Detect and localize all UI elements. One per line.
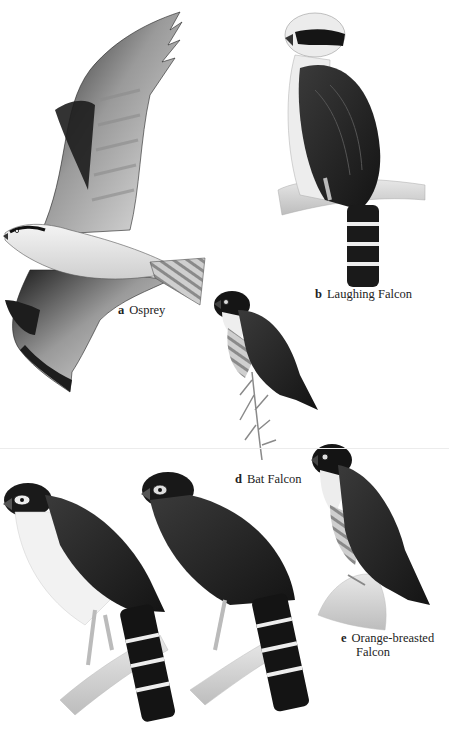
caption-letter: e [341,631,347,645]
orange-breasted-falcon-figure [311,444,430,630]
caption-name: Orange-breasted [352,631,435,645]
caption-letter: d [235,472,242,486]
caption-orange-breasted-falcon: eOrange-breasted [341,631,434,645]
laughing-falcon-figure [278,13,425,287]
caption-laughing-falcon: bLaughing Falcon [315,287,412,301]
forest-falcon-white-figure [3,483,176,723]
caption-orange-breasted-falcon-line2: Falcon [356,645,390,659]
bat-falcon-figure [214,291,318,460]
caption-bat-falcon: dBat Falcon [235,472,301,486]
illustration-plate: aOsprey bLaughing Falcon dBat Falcon eOr… [0,0,449,735]
osprey-figure [3,12,205,392]
caption-letter: b [315,287,322,301]
caption-osprey: aOsprey [118,303,165,317]
caption-name: Osprey [129,303,165,317]
section-divider [0,448,449,449]
bird-illustrations [0,0,449,735]
caption-letter: a [118,303,124,317]
caption-name: Bat Falcon [247,472,302,486]
caption-name: Laughing Falcon [327,287,412,301]
caption-name-line2: Falcon [356,645,390,659]
